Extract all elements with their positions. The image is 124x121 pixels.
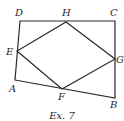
label-a: A xyxy=(8,83,16,94)
geometry-figure: D H C E G A F B Ex. 7 xyxy=(0,0,124,121)
label-f: F xyxy=(57,91,66,102)
label-b: B xyxy=(109,99,117,110)
label-d: D xyxy=(14,7,23,18)
label-e: E xyxy=(5,46,14,57)
label-c: C xyxy=(110,7,118,18)
figure-caption: Ex. 7 xyxy=(48,110,75,121)
inner-quadrilateral-efgh xyxy=(17,22,115,89)
label-h: H xyxy=(61,7,71,18)
outer-quadrilateral-abcd xyxy=(15,21,115,98)
label-g: G xyxy=(116,54,124,65)
